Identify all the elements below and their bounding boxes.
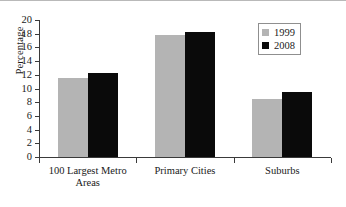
bar-2008-group-3	[282, 92, 312, 157]
top-border-rule	[0, 0, 346, 1]
bar-1999-group-1	[58, 78, 88, 157]
bar-chart-figure: Percentage 20181614121086420 100 Largest…	[0, 0, 346, 207]
legend-item: 2008	[262, 39, 295, 52]
y-axis-tick-label: 8	[27, 95, 32, 108]
y-axis-tick-label: 12	[22, 68, 33, 81]
bar-2008-group-1	[88, 73, 118, 157]
y-axis-tick-label: 10	[22, 82, 33, 95]
x-axis-separator	[331, 158, 332, 163]
legend-swatch-1999-icon	[262, 29, 269, 36]
legend-item: 1999	[262, 26, 295, 39]
legend-label-1999: 1999	[274, 27, 295, 39]
x-axis-category-label: Primary Cities	[136, 165, 233, 177]
y-axis-tick-label: 16	[22, 40, 33, 53]
legend-swatch-2008-icon	[262, 42, 269, 49]
y-axis-tick-label: 14	[22, 54, 33, 67]
y-axis-tick-label: 4	[27, 123, 32, 136]
x-axis-separator	[39, 158, 40, 163]
x-axis-line	[39, 157, 331, 158]
bar-1999-group-2	[155, 35, 185, 157]
y-axis-tick-label: 6	[27, 109, 32, 122]
chart-legend: 1999 2008	[258, 23, 301, 55]
legend-label-2008: 2008	[274, 40, 295, 52]
y-axis-tick-label: 18	[22, 27, 33, 40]
bar-1999-group-3	[252, 99, 282, 157]
y-axis-tick-label: 0	[27, 150, 32, 163]
x-axis-separator	[136, 158, 137, 163]
y-axis-tick-label: 20	[22, 13, 33, 26]
x-axis-separator	[234, 158, 235, 163]
y-axis-tick-label: 2	[27, 136, 32, 149]
x-axis-category-label: 100 Largest MetroAreas	[39, 165, 136, 189]
x-axis-category-label: Suburbs	[234, 165, 331, 177]
bar-2008-group-2	[185, 32, 215, 157]
